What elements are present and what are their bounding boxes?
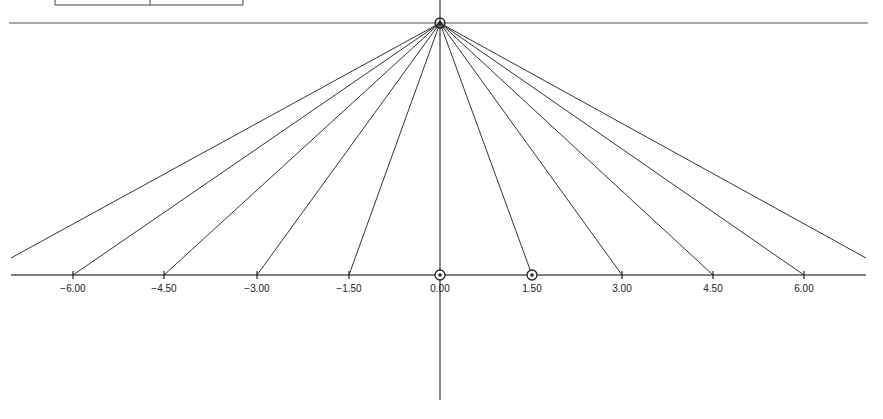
dot-icon	[438, 273, 442, 277]
ray	[257, 23, 440, 275]
ray	[440, 23, 622, 275]
ray	[164, 23, 440, 275]
ray	[11, 23, 440, 258]
ray	[349, 23, 440, 275]
ray-fan-diagram: −6.00−4.50−3.00−1.500.001.503.004.506.00	[0, 0, 883, 419]
tick-label: 0.00	[430, 283, 450, 294]
tick-label: 3.00	[612, 283, 632, 294]
ray	[73, 23, 440, 275]
tick-label: 6.00	[794, 283, 814, 294]
ray	[440, 23, 866, 258]
tick-label: 1.50	[522, 283, 542, 294]
tick-label: −6.00	[60, 283, 86, 294]
ticks: −6.00−4.50−3.00−1.500.001.503.004.506.00	[60, 270, 814, 294]
tick-label: 4.50	[703, 283, 723, 294]
tick-label: −4.50	[151, 283, 177, 294]
ray	[440, 23, 713, 275]
tick-label: −3.00	[244, 283, 270, 294]
rays	[11, 23, 866, 275]
dot-icon	[530, 273, 534, 277]
tick-label: −1.50	[336, 283, 362, 294]
ray	[440, 23, 532, 275]
ray	[440, 23, 804, 275]
table-fragment	[55, 0, 243, 5]
